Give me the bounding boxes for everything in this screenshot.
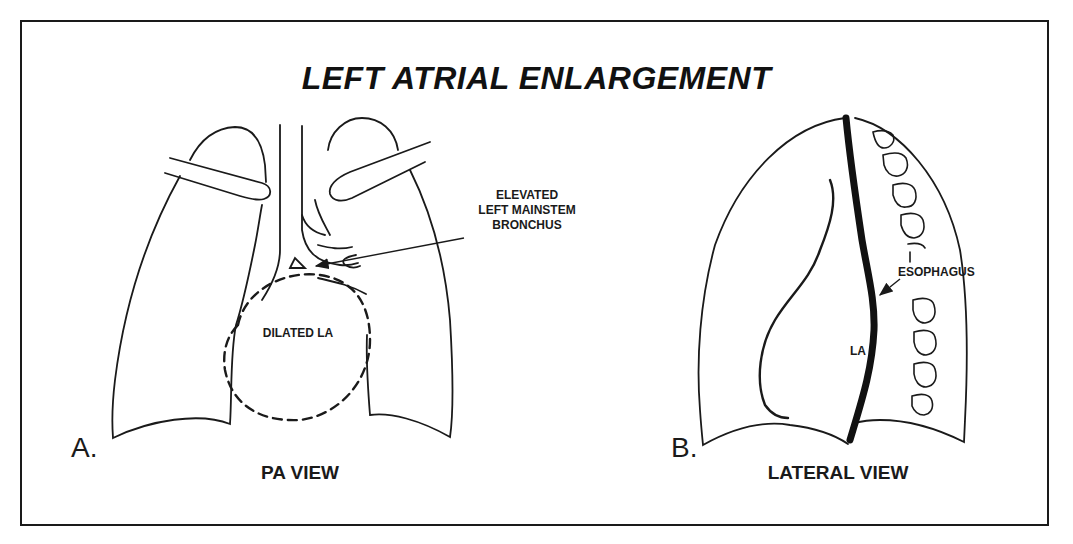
- bronchus-label: ELEVATED LEFT MAINSTEM BRONCHUS: [462, 188, 592, 233]
- left-clavicle: [330, 142, 430, 201]
- la-right-border: [318, 278, 366, 294]
- dilated-la-outline: [224, 274, 370, 420]
- lateral-lung-outline: [699, 118, 848, 445]
- right-clavicle: [165, 158, 270, 200]
- esophagus-band: [846, 118, 874, 440]
- bronchus-label-line2: LEFT MAINSTEM: [462, 203, 592, 218]
- lateral-la-label: LA: [843, 344, 873, 359]
- left-lung-apex: [328, 118, 398, 150]
- lateral-view-label: LATERAL VIEW: [738, 462, 938, 484]
- bronchus-label-line1: ELEVATED: [462, 188, 592, 203]
- carina: [290, 258, 305, 268]
- panel-letter-a: A.: [71, 432, 97, 464]
- left-lung-outline: [367, 170, 453, 437]
- lateral-la-outline: [760, 180, 833, 418]
- panel-letter-b: B.: [671, 432, 697, 464]
- left-bronchus-upper: [315, 200, 352, 248]
- lateral-view-drawing: [699, 118, 967, 445]
- pa-view-label: PA VIEW: [235, 462, 365, 484]
- dilated-la-label: DILATED LA: [243, 326, 353, 341]
- esophagus-label: ESOPHAGUS: [898, 265, 1008, 280]
- esophagus-pointer-arrow: [880, 279, 900, 295]
- pa-view-drawing: [112, 118, 452, 438]
- figure-title: LEFT ATRIAL ENLARGEMENT: [0, 60, 1073, 97]
- bronchus-label-line3: BRONCHUS: [462, 218, 592, 233]
- trachea-left-wall: [262, 125, 280, 300]
